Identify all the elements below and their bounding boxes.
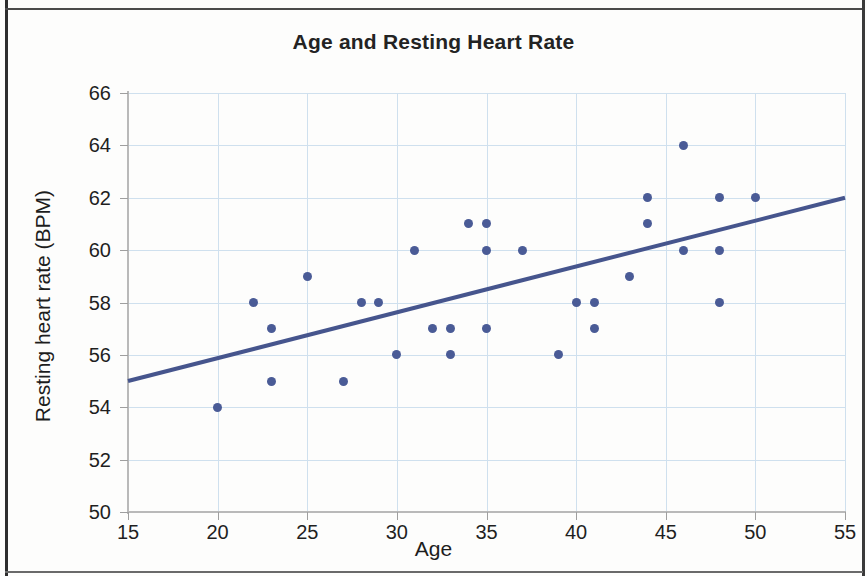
x-tick-label: 45	[636, 521, 696, 544]
y-tick-label: 66	[55, 82, 111, 105]
data-point	[572, 298, 581, 307]
data-point	[303, 272, 312, 281]
x-tick-label: 25	[277, 521, 337, 544]
x-tick	[307, 512, 308, 520]
y-axis-label: Resting heart rate (BPM)	[31, 141, 55, 471]
x-tick-label: 15	[98, 521, 158, 544]
data-point	[715, 246, 724, 255]
x-tick	[218, 512, 219, 520]
y-tick	[120, 198, 128, 199]
x-tick-label: 40	[546, 521, 606, 544]
y-tick-label: 62	[55, 186, 111, 209]
plot-area: 505254565860626466 152025303540455055	[128, 93, 845, 512]
data-point	[679, 141, 688, 150]
x-tick-label: 55	[815, 521, 867, 544]
data-point	[679, 246, 688, 255]
trend-line	[128, 93, 845, 512]
x-tick-label: 30	[367, 521, 427, 544]
y-tick	[120, 407, 128, 408]
y-tick-label: 52	[55, 448, 111, 471]
y-tick	[120, 93, 128, 94]
gridline-vertical	[845, 93, 846, 512]
x-tick	[666, 512, 667, 520]
y-tick-label: 64	[55, 134, 111, 157]
x-tick-label: 35	[457, 521, 517, 544]
y-tick	[120, 250, 128, 251]
data-point	[267, 377, 276, 386]
data-point	[715, 298, 724, 307]
y-tick	[120, 512, 128, 513]
scatter-chart: Age and Resting Heart Rate Resting heart…	[0, 0, 867, 576]
data-point	[590, 324, 599, 333]
x-tick-label: 20	[188, 521, 248, 544]
x-tick	[128, 512, 129, 520]
data-point	[357, 298, 366, 307]
data-point	[518, 246, 527, 255]
y-tick	[120, 460, 128, 461]
x-tick	[845, 512, 846, 520]
data-point	[410, 246, 419, 255]
y-tick	[120, 145, 128, 146]
y-tick-label: 56	[55, 343, 111, 366]
chart-title: Age and Resting Heart Rate	[0, 30, 867, 54]
y-tick	[120, 355, 128, 356]
y-tick-label: 58	[55, 291, 111, 314]
x-tick	[576, 512, 577, 520]
x-tick-label: 50	[725, 521, 785, 544]
data-point	[482, 246, 491, 255]
data-point	[213, 403, 222, 412]
y-tick-label: 54	[55, 396, 111, 419]
y-tick	[120, 303, 128, 304]
y-tick-label: 60	[55, 239, 111, 262]
x-tick	[755, 512, 756, 520]
x-tick	[397, 512, 398, 520]
scanned-page: Age and Resting Heart Rate Resting heart…	[0, 0, 867, 576]
data-point	[339, 377, 348, 386]
data-point	[249, 298, 258, 307]
data-point	[590, 298, 599, 307]
x-tick	[487, 512, 488, 520]
